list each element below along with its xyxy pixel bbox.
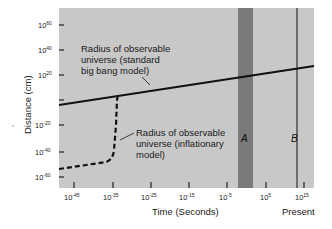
svg-text:10-45: 10-45 — [64, 192, 80, 202]
region-a-band — [238, 8, 253, 188]
x-tick-labels: 10-45 10-35 10-25 10-15 10-5 105 1015 — [64, 192, 309, 202]
svg-text:10-60: 10-60 — [35, 172, 51, 182]
chart: A B 1060 1040 1020 10-20 10-40 10-60 10-… — [0, 0, 332, 229]
svg-text:universe (standard: universe (standard — [81, 54, 160, 65]
svg-text:universe (inflationary: universe (inflationary — [136, 138, 224, 149]
region-b-label: B — [291, 133, 298, 144]
svg-text:10-35: 10-35 — [103, 192, 119, 202]
plot-area — [59, 8, 314, 188]
svg-text:105: 105 — [260, 192, 271, 202]
stray-dot — [12, 125, 14, 127]
y-tick-labels: 1060 1040 1020 10-20 10-40 10-60 — [35, 20, 52, 182]
x-axis-title: Time (Seconds) — [152, 206, 219, 217]
x-extra-label-present: Present — [282, 206, 315, 217]
svg-text:model): model) — [136, 149, 165, 160]
svg-text:1060: 1060 — [38, 20, 52, 30]
svg-text:10-25: 10-25 — [141, 192, 157, 202]
svg-text:10-40: 10-40 — [35, 147, 51, 157]
svg-text:1040: 1040 — [38, 45, 52, 55]
svg-text:Radius of observable: Radius of observable — [81, 43, 170, 54]
svg-text:10-20: 10-20 — [35, 120, 51, 130]
svg-text:big bang model): big bang model) — [81, 65, 149, 76]
svg-text:1015: 1015 — [295, 192, 309, 202]
region-a-label: A — [240, 133, 248, 144]
svg-text:10-15: 10-15 — [179, 192, 195, 202]
svg-text:Radius of observable: Radius of observable — [136, 127, 225, 138]
svg-text:10-5: 10-5 — [219, 192, 232, 202]
svg-text:1020: 1020 — [38, 70, 52, 80]
y-axis-title: Distance (cm) — [22, 75, 33, 134]
